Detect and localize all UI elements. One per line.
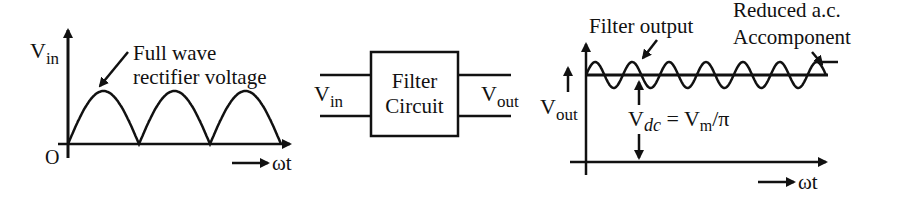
block-title-line1: Filter <box>392 69 438 93</box>
input-x-label: ωt <box>272 151 292 175</box>
block-title-line2: Circuit <box>385 94 443 118</box>
output-graph: Vout Vdc = Vm/π Filter output Reduced a.… <box>540 0 851 194</box>
block-output-label: Vout <box>481 81 519 111</box>
output-x-label: ωt <box>798 170 818 194</box>
annotation-line1: Full wave <box>133 41 216 65</box>
output-y-label: Vout <box>540 94 578 124</box>
filter-diagram: Vin Full wave rectifier voltage O ωt Vin… <box>0 0 903 202</box>
input-y-label: Vin <box>30 38 60 68</box>
input-graph: Vin Full wave rectifier voltage O ωt <box>30 30 292 175</box>
filter-output-label: Filter output <box>589 14 694 38</box>
vdc-formula: Vdc = Vm/π <box>628 106 729 135</box>
origin-label: O <box>45 146 59 168</box>
rectified-wave <box>68 91 281 144</box>
ripple-label-line2: Accomponent <box>733 25 851 49</box>
filter-output-arrow <box>643 40 657 58</box>
block-input-label: Vin <box>314 81 344 111</box>
ripple-label-line1: Reduced a.c. <box>733 0 841 22</box>
filter-block: Vin Filter Circuit Vout <box>314 52 519 136</box>
annotation-line2: rectifier voltage <box>133 65 267 89</box>
annotation-arrow <box>100 52 128 86</box>
